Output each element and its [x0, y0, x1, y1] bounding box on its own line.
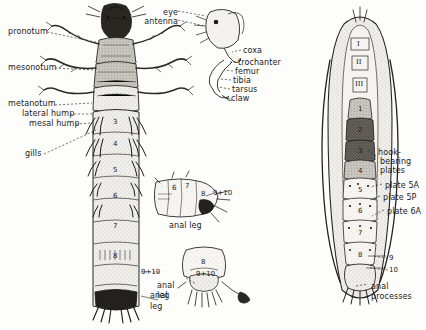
anatomical-plate: pronotum mesonotum metanotum lateral hum… [0, 0, 426, 330]
pupa-segment-1: 1 [358, 105, 362, 113]
label-plate-5p: plate 5P [383, 194, 417, 203]
label-mesonotum: mesonotum [8, 64, 57, 73]
pupa-segment-3: 3 [358, 147, 362, 155]
larva-dorsal-figure [38, 4, 194, 324]
pupa-segment-10: 10 [389, 266, 398, 274]
label-anal-processes-line1: anal [371, 283, 389, 292]
plate-illustration [0, 0, 426, 330]
larva-segment-6: 6 [113, 192, 117, 200]
lateral-segment-6: 6 [172, 184, 176, 192]
label-hook-bearing-plates-line3: plates [380, 167, 405, 176]
pupa-segment-5: 5 [358, 186, 362, 194]
label-gills: gills [25, 150, 41, 159]
ventral-segment-9-10: 9+10 [196, 270, 215, 278]
label-anal-processes-line2: processes [371, 293, 412, 302]
larva-segment-4: 4 [113, 140, 117, 148]
ventral-segment-8: 8 [201, 258, 205, 266]
label-lateral-hump: lateral hump [22, 110, 74, 119]
label-mesal-hump: mesal hump [29, 120, 80, 129]
label-coxa: coxa [243, 47, 262, 56]
lateral-segment-9-10: 9+10 [213, 189, 232, 197]
pupa-segment-9: 9 [389, 254, 393, 262]
pupa-segment-6: 6 [358, 207, 362, 215]
larva-segment-5: 5 [113, 166, 117, 174]
label-plate-5a: plate 5A [385, 182, 419, 191]
label-pronotum: pronotum [8, 28, 48, 37]
pupa-segment-8: 8 [358, 251, 362, 259]
larva-segment-9-10: 9+10 [141, 268, 160, 276]
larva-segment-3: 3 [113, 118, 117, 126]
pupa-thorax-1: I [357, 40, 360, 48]
label-plate-6a: plate 6A [387, 208, 421, 217]
pupa-segment-4: 4 [358, 167, 362, 175]
pupa-segment-2: 2 [358, 126, 362, 134]
lateral-segment-7: 7 [185, 182, 189, 190]
label-metanotum: metanotum [8, 100, 56, 109]
label-claw: claw [231, 95, 249, 104]
larva-segment-8: 8 [113, 252, 117, 260]
larva-segment-7: 7 [113, 222, 117, 230]
pupa-thorax-3: III [355, 80, 363, 88]
ventral-anal-leg-line2: leg [157, 292, 170, 301]
lateral-anal-leg-caption: anal leg [169, 222, 202, 231]
ventral-anal-leg-line1: anal [157, 282, 175, 291]
label-antenna: antenna [130, 18, 178, 27]
larva-anal-leg-line2: leg [150, 303, 163, 312]
pupa-segment-7: 7 [358, 229, 362, 237]
pupa-thorax-2: II [356, 58, 362, 66]
lateral-segment-8: 8 [201, 190, 205, 198]
